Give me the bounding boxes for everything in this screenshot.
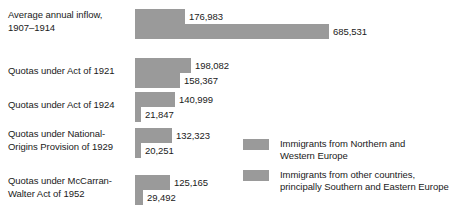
bar-group: 198,082 158,367 [135,56,229,86]
legend-swatch-icon [243,139,269,150]
bar-row-other-countries: 20,251 [135,141,210,156]
bar-value: 29,492 [143,190,176,205]
category-label-line2: Origins Provision of 1929 [8,141,113,152]
bar-other-countries [135,73,180,88]
category-label: Quotas under McCarran- Walter Act of 195… [8,175,130,200]
bar-row-northern-western: 125,165 [135,173,208,188]
legend-label-line1: Immigrants from Northern and [280,138,405,149]
category-label: Quotas under Act of 1924 [8,99,130,112]
legend-swatch-icon [243,170,269,181]
legend-label: Immigrants from Northern and Western Eur… [280,138,449,161]
bar-row-northern-western: 176,983 [135,7,367,22]
category-label-line1: Quotas under National- [8,128,105,139]
bar-row-northern-western: 198,082 [135,56,229,71]
bar-group: 132,323 20,251 [135,126,210,156]
category-label-line1: Quotas under Act of 1921 [8,65,115,76]
bar-row-other-countries: 21,847 [135,105,213,120]
bar-value: 685,531 [329,24,367,39]
legend-label-line2: Western Europe [280,150,348,161]
bar-row-other-countries: 29,492 [135,188,208,203]
category-label: Average annual inflow, 1907–1914 [8,9,130,34]
category-label: Quotas under Act of 1921 [8,65,130,78]
legend-item-northern-western-europe: Immigrants from Northern and Western Eur… [243,138,449,162]
legend-label-line2: principally Southern and Eastern Europe [280,181,449,192]
category-label: Quotas under National- Origins Provision… [8,128,130,153]
bar-other-countries [135,24,329,39]
bar-row-other-countries: 685,531 [135,22,367,37]
category-label-line2: Walter Act of 1952 [8,188,84,199]
legend-label-line1: Immigrants from other countries, [280,169,415,180]
bar-group: 125,165 29,492 [135,173,208,203]
category-label-line1: Quotas under Act of 1924 [8,99,115,110]
bar-row-northern-western: 132,323 [135,126,210,141]
legend-item-other-countries: Immigrants from other countries, princip… [243,169,449,193]
category-label-line2: 1907–1914 [8,22,55,33]
bar-value: 21,847 [141,107,174,122]
bar-value: 158,367 [180,73,218,88]
chart-legend: Immigrants from Northern and Western Eur… [243,138,449,200]
bar-group: 140,999 21,847 [135,90,213,120]
bar-row-northern-western: 140,999 [135,90,213,105]
bar-group: 176,983 685,531 [135,7,367,37]
legend-label: Immigrants from other countries, princip… [280,169,449,192]
bar-value: 20,251 [141,143,174,158]
immigration-quotas-bar-chart: Average annual inflow, 1907–1914 176,983… [0,0,455,213]
bar-other-countries [135,190,143,205]
category-label-line1: Average annual inflow, [8,9,102,20]
category-label-line1: Quotas under McCarran- [8,175,112,186]
bar-row-other-countries: 158,367 [135,71,229,86]
